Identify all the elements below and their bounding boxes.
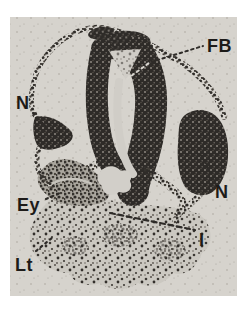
label-n-right: N	[215, 182, 229, 202]
label-n-left: N	[16, 93, 30, 113]
label-lt: Lt	[15, 255, 33, 275]
label-fb: FB	[207, 36, 232, 56]
label-ey: Ey	[17, 195, 40, 215]
figure-plate: FB N N Ey I Lt	[0, 0, 241, 313]
micrograph: FB N N Ey I Lt	[0, 0, 241, 313]
label-i: I	[199, 230, 205, 250]
